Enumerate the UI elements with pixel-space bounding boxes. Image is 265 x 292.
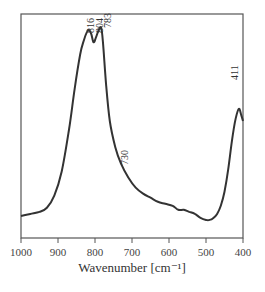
spectrum-line xyxy=(21,27,243,220)
x-axis-label: Wavenumber [cm⁻¹] xyxy=(78,260,186,275)
x-tick-label: 700 xyxy=(124,246,141,258)
peak-annotations: 816804783730411 xyxy=(85,13,240,165)
x-tick-label: 900 xyxy=(50,246,67,258)
plot-frame xyxy=(21,14,243,238)
ftir-spectrum-chart: 1000900800700600500400 816804783730411 W… xyxy=(0,0,265,292)
peak-label: 730 xyxy=(119,150,130,165)
x-tick-label: 800 xyxy=(87,246,104,258)
x-tick-label: 600 xyxy=(161,246,178,258)
x-tick-label: 1000 xyxy=(10,246,33,258)
x-axis-tick-labels: 1000900800700600500400 xyxy=(10,246,252,258)
x-axis-ticks xyxy=(21,238,243,243)
x-tick-label: 400 xyxy=(235,246,252,258)
peak-label: 783 xyxy=(102,13,113,28)
x-tick-label: 500 xyxy=(198,246,215,258)
peak-label: 411 xyxy=(229,65,240,80)
